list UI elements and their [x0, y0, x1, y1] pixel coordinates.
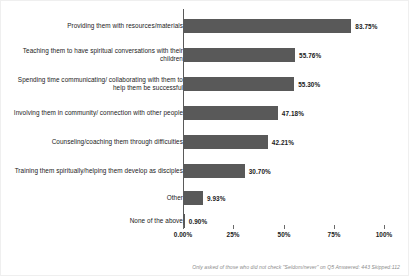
bar[interactable] [183, 77, 294, 91]
chart-footnote: Only asked of those who did not check "S… [192, 264, 400, 270]
x-axis-tick-label: 75% [328, 231, 341, 238]
x-axis-tick [183, 225, 184, 229]
x-axis-tick [334, 225, 335, 229]
x-axis-baseline [183, 9, 184, 221]
bar-value-label: 9.93% [207, 195, 225, 202]
bar[interactable] [183, 164, 245, 178]
category-label: Training them spiritually/helping them d… [8, 167, 183, 175]
category-label: Spending time communicating/ collaborati… [8, 76, 183, 91]
bar-value-label: 47.18% [282, 110, 304, 117]
x-axis-tick-label: 50% [278, 231, 291, 238]
bar-value-label: 55.30% [298, 81, 320, 88]
bar-chart-figure: Providing them with resources/materials … [0, 0, 409, 276]
bar[interactable] [183, 106, 278, 120]
bar-value-label: 30.70% [249, 168, 271, 175]
bar-value-label: 0.90% [189, 218, 207, 225]
category-label: None of the above [8, 217, 183, 225]
category-label: Teaching them to have spiritual conversa… [8, 47, 183, 62]
bar-value-label: 42.21% [272, 139, 294, 146]
bar[interactable] [183, 191, 203, 205]
bar[interactable] [183, 48, 295, 62]
x-axis-tick-label: 0.00% [174, 231, 192, 238]
plot-area: Providing them with resources/materials … [1, 1, 409, 229]
x-axis-tick [384, 225, 385, 229]
bar-value-label: 55.76% [299, 52, 321, 59]
x-axis-tick-label: 100% [376, 231, 393, 238]
category-label: Other [8, 194, 183, 202]
x-axis-tick-label: 25% [227, 231, 240, 238]
category-label: Involving them in community/ connection … [8, 109, 183, 117]
x-axis-tick [233, 225, 234, 229]
x-axis-tick [284, 225, 285, 229]
bar[interactable] [183, 135, 268, 149]
category-label: Providing them with resources/materials [8, 22, 183, 30]
category-label: Counseling/coaching them through difficu… [8, 138, 183, 146]
bar-value-label: 83.75% [355, 23, 377, 30]
bar[interactable] [183, 19, 351, 33]
